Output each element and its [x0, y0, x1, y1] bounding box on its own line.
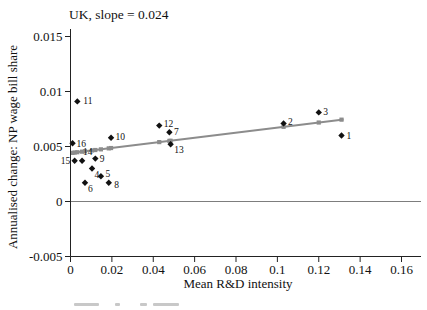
- x-tick-label: 0.14: [349, 262, 372, 277]
- x-tick-label: 0.16: [390, 262, 413, 277]
- fitted-square-marker: [317, 120, 321, 124]
- data-point-diamond: [92, 155, 98, 161]
- data-point-diamond: [338, 132, 344, 138]
- point-label-8: 8: [114, 180, 119, 190]
- point-label-13: 13: [174, 145, 184, 155]
- y-tick-label: 0.015: [33, 29, 62, 44]
- data-point-diamond: [79, 158, 85, 164]
- point-label-15: 15: [61, 156, 71, 166]
- point-label-2: 2: [288, 117, 293, 127]
- data-point-diamond: [316, 109, 322, 115]
- scatter-plot-figure: UK, slope = 0.024 Annualised change: NP …: [0, 0, 427, 310]
- x-tick-label: 0.02: [101, 262, 124, 277]
- point-label-4: 4: [95, 170, 100, 180]
- fitted-square-marker: [93, 148, 97, 152]
- y-tick-label: -0.005: [29, 249, 63, 264]
- point-label-11: 11: [83, 96, 92, 106]
- data-point-diamond: [156, 122, 162, 128]
- x-tick-label: 0: [67, 262, 74, 277]
- data-point-diamond: [106, 180, 112, 186]
- data-point-diamond: [71, 158, 77, 164]
- fitted-square-marker: [339, 118, 343, 122]
- data-point-diamond: [108, 135, 114, 141]
- fitted-square-marker: [109, 146, 113, 150]
- x-tick-label: 0.04: [142, 262, 165, 277]
- point-label-9: 9: [100, 154, 105, 164]
- point-label-14: 14: [83, 147, 93, 157]
- point-label-3: 3: [323, 107, 328, 117]
- data-point-diamond: [74, 98, 80, 104]
- y-tick-label: 0.005: [33, 139, 62, 154]
- point-label-12: 12: [164, 119, 174, 129]
- point-label-1: 1: [347, 131, 352, 141]
- fitted-square-marker: [157, 140, 161, 144]
- point-label-7: 7: [174, 127, 179, 137]
- x-tick-label: 0.06: [183, 262, 206, 277]
- point-label-6: 6: [88, 184, 93, 194]
- x-tick-label: 0.12: [307, 262, 330, 277]
- plot-area: 12345678910111213141516-0.00500.0050.010…: [0, 0, 427, 310]
- point-label-5: 5: [105, 169, 110, 179]
- text-smudge: [153, 303, 179, 306]
- text-smudge: [115, 303, 120, 306]
- point-label-16: 16: [77, 139, 87, 149]
- x-axis-title: Mean R&D intensity: [138, 276, 338, 292]
- x-tick-label: 0.1: [269, 262, 285, 277]
- fitted-square-marker: [75, 150, 79, 154]
- text-smudge: [74, 303, 99, 306]
- point-label-10: 10: [116, 132, 126, 142]
- cropped-next-panel-text-fragment: [74, 303, 179, 307]
- x-tick-label: 0.08: [225, 262, 248, 277]
- fitted-square-marker: [99, 147, 103, 151]
- y-tick-label: 0.01: [40, 84, 63, 99]
- y-tick-label: 0: [56, 194, 63, 209]
- data-point-diamond: [166, 129, 172, 135]
- text-smudge: [140, 303, 147, 306]
